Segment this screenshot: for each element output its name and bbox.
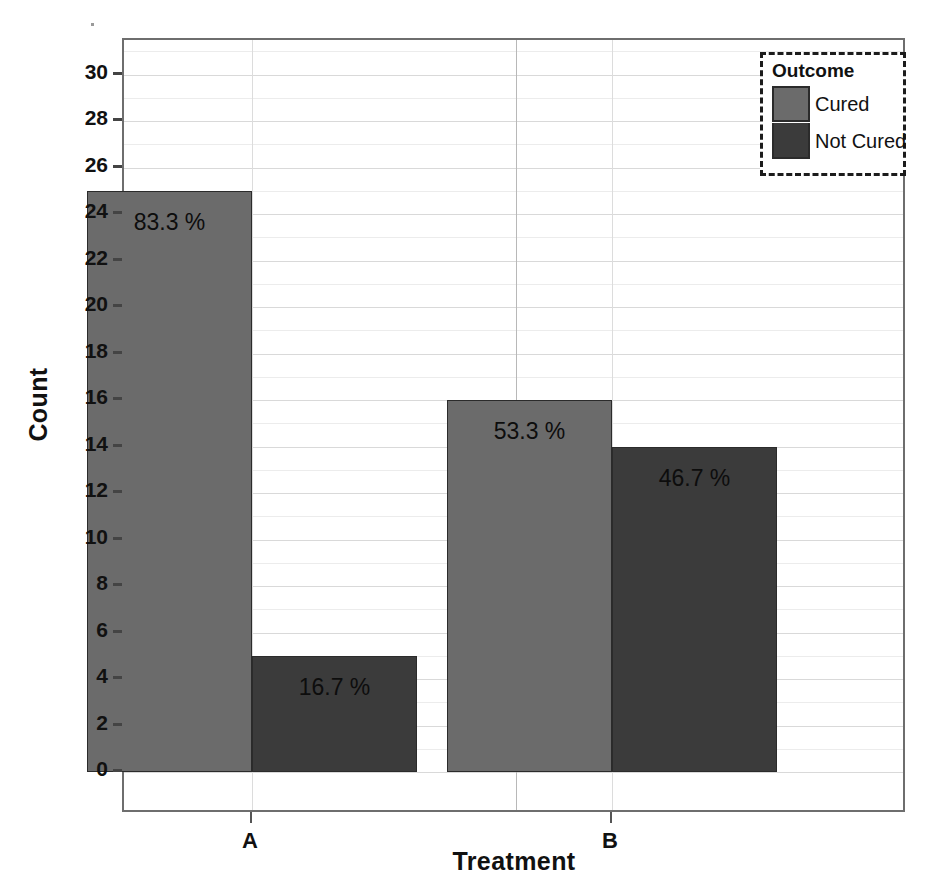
x-tick-label: B — [550, 828, 670, 854]
y-tick-mark — [113, 351, 122, 354]
bar-value-label: 53.3 % — [447, 418, 612, 445]
y-tick-label: 4 — [96, 664, 108, 688]
y-tick-16: 16 — [0, 398, 122, 399]
y-tick-label: 18 — [85, 339, 108, 363]
legend-swatch-not-cured — [772, 123, 810, 159]
y-tick-12: 12 — [0, 491, 122, 492]
y-tick-label: 6 — [96, 618, 108, 642]
y-tick-label: 26 — [85, 153, 108, 177]
legend-items: Cured Not Cured — [772, 86, 896, 160]
y-tick-22: 22 — [0, 259, 122, 260]
x-tick-label: A — [190, 828, 310, 854]
y-tick-label: 12 — [85, 478, 108, 502]
y-axis-title: Count — [24, 345, 53, 465]
y-tick-30: 30 — [0, 73, 122, 74]
bar-value-label: 16.7 % — [252, 674, 417, 701]
y-tick-label: 8 — [96, 571, 108, 595]
y-tick-18: 18 — [0, 352, 122, 353]
y-tick-4: 4 — [0, 677, 122, 678]
y-tick-mark — [113, 258, 122, 261]
y-tick-label: 0 — [96, 757, 108, 781]
y-tick-mark — [113, 72, 122, 75]
y-tick-mark — [113, 630, 122, 633]
y-tick-mark — [113, 118, 122, 121]
bar-b-not-cured[interactable] — [612, 447, 777, 773]
legend-title: Outcome — [772, 61, 896, 82]
y-tick-mark — [113, 165, 122, 168]
y-tick-2: 2 — [0, 724, 122, 725]
y-tick-label: 20 — [85, 292, 108, 316]
y-tick-mark — [113, 444, 122, 447]
y-tick-mark — [113, 723, 122, 726]
y-tick-mark — [113, 676, 122, 679]
y-tick-8: 8 — [0, 584, 122, 585]
y-tick-mark — [113, 211, 122, 214]
y-tick-28: 28 — [0, 119, 122, 120]
bar-chart: Count Treatment 83.3 %16.7 %53.3 %46.7 %… — [0, 0, 932, 884]
y-tick-24: 24 — [0, 212, 122, 213]
y-tick-14: 14 — [0, 445, 122, 446]
bar-a-cured[interactable] — [87, 191, 252, 772]
gridline-y — [124, 772, 903, 773]
legend-swatch-cured — [772, 86, 810, 122]
y-tick-mark — [113, 537, 122, 540]
y-tick-20: 20 — [0, 305, 122, 306]
legend-label-cured: Cured — [815, 93, 869, 115]
legend-item-cured[interactable]: Cured — [772, 86, 896, 123]
bar-b-cured[interactable] — [447, 400, 612, 772]
y-tick-mark — [113, 769, 122, 772]
y-tick-mark — [113, 397, 122, 400]
y-tick-mark — [113, 583, 122, 586]
y-tick-26: 26 — [0, 166, 122, 167]
y-tick-label: 16 — [85, 385, 108, 409]
y-tick-label: 14 — [85, 432, 108, 456]
y-tick-6: 6 — [0, 631, 122, 632]
speck-artifact — [91, 23, 94, 26]
y-tick-label: 22 — [85, 246, 108, 270]
y-tick-mark — [113, 490, 122, 493]
x-tick-mark — [250, 812, 252, 823]
y-tick-label: 10 — [85, 525, 108, 549]
y-tick-mark — [113, 304, 122, 307]
x-tick-mark — [610, 812, 612, 823]
y-tick-10: 10 — [0, 538, 122, 539]
y-tick-label: 30 — [85, 60, 108, 84]
legend-label-not-cured: Not Cured — [815, 130, 906, 152]
y-tick-0: 0 — [0, 770, 122, 771]
legend-item-not-cured[interactable]: Not Cured — [772, 123, 896, 160]
y-tick-label: 24 — [85, 199, 108, 223]
legend[interactable]: Outcome Cured Not Cured — [760, 52, 906, 176]
y-tick-label: 28 — [85, 106, 108, 130]
y-tick-label: 2 — [96, 711, 108, 735]
bar-value-label: 46.7 % — [612, 465, 777, 492]
